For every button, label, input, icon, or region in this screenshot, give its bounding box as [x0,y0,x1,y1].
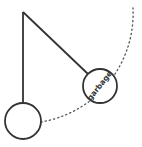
pendulum-diagram: garbage [0,0,142,147]
swung-pendulum-string [23,12,88,74]
rest-pendulum-bob [5,103,41,139]
swing-path-arc [41,8,133,122]
